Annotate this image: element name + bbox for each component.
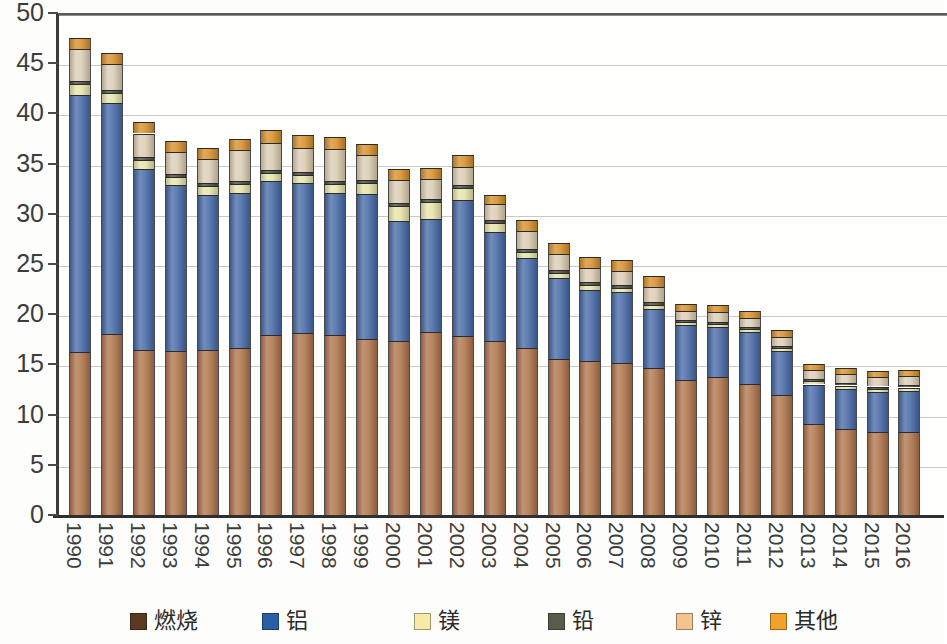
gridlines-and-bars bbox=[59, 15, 947, 517]
bar-segment bbox=[835, 383, 857, 385]
bar-segment bbox=[835, 386, 857, 389]
x-axis-tick-label: 2013 bbox=[796, 522, 820, 569]
bar-segment bbox=[292, 135, 314, 147]
legend-item-6[interactable]: 其他 bbox=[770, 610, 838, 632]
bar-segment bbox=[197, 183, 219, 186]
bar-segment bbox=[133, 134, 155, 157]
legend-item-3[interactable]: 镁 bbox=[414, 610, 460, 632]
legend-item-label: 燃烧 bbox=[154, 610, 198, 632]
bar-segment bbox=[260, 170, 282, 173]
bar-segment bbox=[388, 180, 410, 203]
bar-segment bbox=[898, 385, 920, 387]
bar-segment bbox=[675, 325, 697, 380]
bar-segment bbox=[484, 232, 506, 341]
bar-segment bbox=[69, 95, 91, 352]
bar-column[interactable] bbox=[388, 15, 410, 517]
bar-column[interactable] bbox=[165, 15, 187, 517]
x-axis-tick-label: 2010 bbox=[700, 522, 724, 569]
bar-column[interactable] bbox=[452, 15, 474, 517]
bar-column[interactable] bbox=[420, 15, 442, 517]
bar-segment bbox=[803, 379, 825, 381]
y-axis-tick-label: 50 bbox=[0, 0, 44, 25]
bar-segment bbox=[484, 341, 506, 517]
bar-segment bbox=[675, 320, 697, 323]
bar-column[interactable] bbox=[707, 15, 729, 517]
bar-column[interactable] bbox=[579, 15, 601, 517]
bar-segment bbox=[452, 185, 474, 188]
bar-segment bbox=[292, 333, 314, 517]
bar-segment bbox=[516, 220, 538, 231]
bar-column[interactable] bbox=[484, 15, 506, 517]
bar-column[interactable] bbox=[611, 15, 633, 517]
bar-segment bbox=[229, 184, 251, 193]
legend-swatch-icon bbox=[770, 613, 787, 630]
bar-segment bbox=[835, 374, 857, 383]
bar-segment bbox=[324, 149, 346, 181]
bar-segment bbox=[133, 157, 155, 160]
bar-segment bbox=[803, 385, 825, 424]
bar-column[interactable] bbox=[260, 15, 282, 517]
legend-item-1[interactable]: 燃烧 bbox=[130, 610, 198, 632]
bar-column[interactable] bbox=[101, 15, 123, 517]
bar-segment bbox=[260, 143, 282, 170]
x-axis-tick-label: 2004 bbox=[509, 522, 533, 569]
legend-item-2[interactable]: 铝 bbox=[262, 610, 308, 632]
bar-segment bbox=[292, 172, 314, 175]
bar-segment bbox=[898, 370, 920, 376]
bar-segment bbox=[101, 93, 123, 103]
bar-segment bbox=[229, 150, 251, 181]
bar-segment bbox=[229, 193, 251, 349]
bar-column[interactable] bbox=[133, 15, 155, 517]
bar-segment bbox=[452, 155, 474, 167]
bar-segment bbox=[165, 351, 187, 517]
bar-column[interactable] bbox=[69, 15, 91, 517]
bar-column[interactable] bbox=[739, 15, 761, 517]
chart-legend: 燃烧铝镁铅锌其他 bbox=[0, 606, 944, 644]
x-axis-tick-label: 1994 bbox=[190, 522, 214, 569]
bar-column[interactable] bbox=[771, 15, 793, 517]
bar-segment bbox=[611, 363, 633, 517]
bar-column[interactable] bbox=[197, 15, 219, 517]
bar-segment bbox=[579, 257, 601, 268]
bar-segment bbox=[356, 144, 378, 155]
bar-segment bbox=[197, 159, 219, 183]
legend-item-4[interactable]: 铅 bbox=[548, 610, 594, 632]
legend-swatch-icon bbox=[676, 613, 693, 630]
bar-segment bbox=[707, 322, 729, 325]
bar-segment bbox=[643, 302, 665, 305]
bar-segment bbox=[611, 285, 633, 288]
bar-segment bbox=[292, 175, 314, 183]
bar-column[interactable] bbox=[867, 15, 889, 517]
x-axis-tick-label: 2003 bbox=[477, 522, 501, 569]
bar-segment bbox=[260, 130, 282, 142]
bar-segment bbox=[356, 339, 378, 517]
bar-column[interactable] bbox=[516, 15, 538, 517]
bar-segment bbox=[643, 305, 665, 309]
bar-column[interactable] bbox=[324, 15, 346, 517]
bar-segment bbox=[739, 329, 761, 332]
bar-column[interactable] bbox=[292, 15, 314, 517]
bar-segment bbox=[707, 312, 729, 322]
bar-column[interactable] bbox=[229, 15, 251, 517]
bar-segment bbox=[356, 183, 378, 194]
x-axis-tick-label: 2001 bbox=[413, 522, 437, 569]
legend-item-5[interactable]: 锌 bbox=[676, 610, 722, 632]
x-axis-tick-label: 1992 bbox=[126, 522, 150, 569]
bar-segment bbox=[69, 84, 91, 95]
bar-segment bbox=[803, 364, 825, 370]
y-axis-tick-label: 40 bbox=[0, 100, 44, 125]
bar-column[interactable] bbox=[835, 15, 857, 517]
bar-column[interactable] bbox=[548, 15, 570, 517]
bar-segment bbox=[324, 184, 346, 193]
bar-column[interactable] bbox=[643, 15, 665, 517]
bar-segment bbox=[867, 387, 889, 389]
bar-column[interactable] bbox=[803, 15, 825, 517]
bar-segment bbox=[324, 137, 346, 149]
x-axis-tick-label: 1993 bbox=[158, 522, 182, 569]
bar-column[interactable] bbox=[898, 15, 920, 517]
y-axis-tick-label: 10 bbox=[0, 402, 44, 427]
bar-column[interactable] bbox=[356, 15, 378, 517]
bar-column[interactable] bbox=[675, 15, 697, 517]
y-axis-tick-label: 0 bbox=[0, 502, 44, 527]
legend-swatch-icon bbox=[262, 613, 279, 630]
